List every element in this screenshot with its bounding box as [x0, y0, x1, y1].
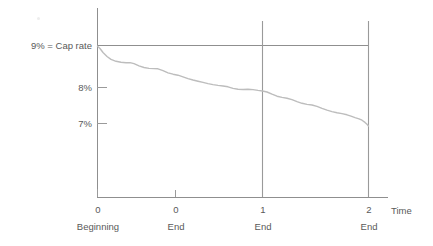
x-tick-sublabel-beginning: Beginning — [62, 221, 134, 232]
x-tick-label-0-end: 0 — [156, 204, 196, 215]
x-tick-sublabel-end-2: End — [343, 221, 395, 232]
x-tick-label-0-beginning: 0 — [78, 204, 118, 215]
yield-curve-line — [98, 46, 369, 126]
x-tick-sublabel-end-0: End — [150, 221, 202, 232]
x-tick-sublabel-end-1: End — [237, 221, 289, 232]
chart-container: 9% = Cap rate 8% 7% 0 0 1 2 Time Beginni… — [0, 0, 433, 246]
y-tick-label-9pct-cap-rate: 9% = Cap rate — [8, 40, 92, 51]
x-tick-label-1-end: 1 — [243, 204, 283, 215]
y-tick-label-8pct: 8% — [52, 82, 92, 93]
x-axis-title: Time — [391, 205, 433, 216]
y-tick-label-7pct: 7% — [52, 118, 92, 129]
x-tick-label-2-end: 2 — [349, 204, 389, 215]
